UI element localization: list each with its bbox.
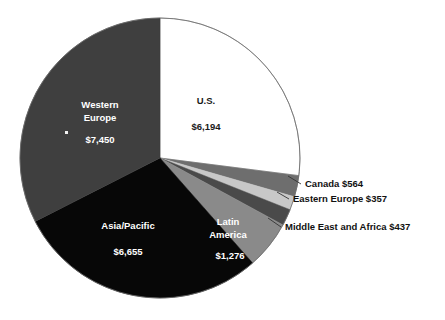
slice-name-western-europe: Western — [81, 99, 119, 110]
slice-value-u-s: $6,194 — [191, 121, 221, 132]
slice-value-latin-america: $1,276 — [215, 250, 244, 261]
callout-label-eastern-europe: Eastern Europe $357 — [293, 193, 387, 204]
slice-value-asia-pacific: $6,655 — [113, 246, 143, 257]
slice-value-western-europe: $7,450 — [85, 134, 114, 145]
slice-name-u-s: U.S. — [197, 95, 215, 106]
slice-name-latin-america: Latin — [217, 216, 240, 227]
pie-chart-container: U.S.$6,194Canada $564Eastern Europe $357… — [0, 0, 445, 320]
slice-name-western-europe-line2: Europe — [84, 112, 117, 123]
pie-slices-group — [20, 18, 300, 298]
pie-slice-u-s[interactable] — [160, 18, 300, 176]
image-speck-artifact — [65, 131, 68, 134]
pie-chart: U.S.$6,194Canada $564Eastern Europe $357… — [0, 0, 445, 320]
callout-label-middle-east-and-africa: Middle East and Africa $437 — [285, 221, 410, 232]
callout-label-canada: Canada $564 — [305, 178, 364, 189]
slice-name-asia-pacific: Asia/Pacific — [101, 220, 154, 231]
slice-name-latin-america-line2: America — [209, 229, 247, 240]
